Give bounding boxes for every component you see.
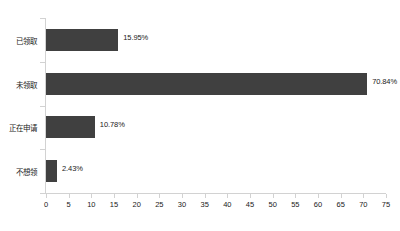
bar-item: 70.84% — [46, 73, 386, 95]
x-axis-tick — [363, 194, 364, 198]
bar-chart: 15.95%70.84%10.78%2.43% 已领取未领取正在申请不想领 05… — [0, 0, 400, 231]
bar — [46, 160, 57, 182]
x-axis-tick — [318, 194, 319, 198]
x-axis-tick — [386, 194, 387, 198]
x-axis-tick — [159, 194, 160, 198]
x-axis-tick-label: 60 — [314, 200, 322, 209]
x-axis-tick — [69, 194, 70, 198]
x-axis-tick-label: 30 — [178, 200, 186, 209]
bar-item: 2.43% — [46, 160, 386, 182]
y-axis-tick — [40, 18, 45, 19]
x-axis-tick-label: 35 — [200, 200, 208, 209]
category-label: 已领取 — [16, 35, 37, 46]
x-axis-tick — [114, 194, 115, 198]
bar-value-label: 15.95% — [123, 33, 148, 42]
x-axis-tick — [182, 194, 183, 198]
bar-item: 10.78% — [46, 116, 386, 138]
category-label: 正在申请 — [9, 122, 37, 133]
x-axis-tick-label: 45 — [246, 200, 254, 209]
x-axis-tick-label: 15 — [110, 200, 118, 209]
x-axis-tick — [341, 194, 342, 198]
x-axis-tick — [295, 194, 296, 198]
y-axis-tick — [40, 149, 45, 150]
bar — [46, 73, 367, 95]
bar-item: 15.95% — [46, 29, 386, 51]
x-axis-tick-label: 50 — [268, 200, 276, 209]
x-axis-tick — [137, 194, 138, 198]
x-axis-tick — [91, 194, 92, 198]
x-axis-tick-label: 75 — [382, 200, 390, 209]
x-axis-tick-label: 65 — [336, 200, 344, 209]
x-axis-tick-label: 70 — [359, 200, 367, 209]
x-axis-tick-label: 20 — [132, 200, 140, 209]
x-axis-tick — [46, 194, 47, 198]
x-axis-tick-label: 25 — [155, 200, 163, 209]
category-label-wrap: 正在申请 — [0, 116, 45, 138]
bar — [46, 29, 118, 51]
y-axis-tick — [40, 193, 45, 194]
x-axis-tick — [227, 194, 228, 198]
bar-value-label: 2.43% — [62, 164, 83, 173]
category-label-wrap: 未领取 — [0, 73, 45, 95]
bar — [46, 116, 95, 138]
bar-value-label: 10.78% — [100, 120, 125, 129]
x-axis-tick-label: 10 — [87, 200, 95, 209]
x-axis-line — [45, 193, 386, 194]
x-axis-tick-label: 5 — [67, 200, 71, 209]
x-axis-tick — [205, 194, 206, 198]
x-axis-tick — [250, 194, 251, 198]
y-axis-tick — [40, 106, 45, 107]
category-label-wrap: 已领取 — [0, 29, 45, 51]
bar-value-label: 70.84% — [372, 77, 397, 86]
category-label: 未领取 — [16, 79, 37, 90]
category-label-wrap: 不想领 — [0, 160, 45, 182]
x-axis-tick-label: 40 — [223, 200, 231, 209]
y-axis-tick — [40, 62, 45, 63]
x-axis-tick-label: 0 — [44, 200, 48, 209]
x-axis-tick — [273, 194, 274, 198]
category-label: 不想领 — [16, 166, 37, 177]
x-axis-tick-label: 55 — [291, 200, 299, 209]
